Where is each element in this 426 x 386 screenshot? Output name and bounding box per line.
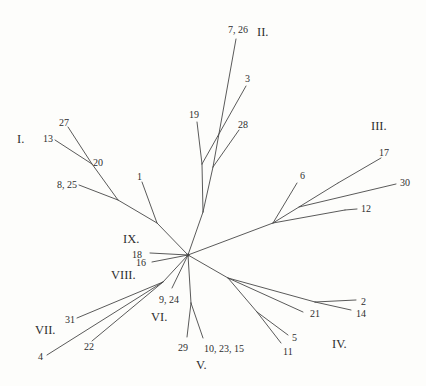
leaf-label-11: 11 bbox=[283, 346, 293, 357]
tree-edge-1 bbox=[55, 140, 92, 164]
tree-edge-22 bbox=[228, 278, 303, 312]
tree-edge-7 bbox=[188, 212, 203, 255]
leaf-label-18: 18 bbox=[132, 249, 142, 260]
leaf-label-30: 30 bbox=[400, 177, 410, 188]
leaf-label-22: 22 bbox=[84, 341, 94, 352]
leaf-label-9-24: 9, 24 bbox=[159, 294, 179, 305]
tree-edge-9 bbox=[197, 122, 202, 164]
leaf-label-1: 1 bbox=[137, 171, 142, 182]
leaf-label-28: 28 bbox=[238, 119, 248, 130]
leaf-label-4: 4 bbox=[38, 351, 43, 362]
tree-edge-30 bbox=[187, 303, 191, 337]
tree-edge-32 bbox=[172, 255, 188, 288]
tree-edge-26 bbox=[228, 278, 257, 312]
tree-edge-13 bbox=[213, 39, 236, 167]
tree-edge-37 bbox=[150, 253, 188, 255]
group-label-V: V. bbox=[196, 358, 207, 372]
group-label-VIII: VIII. bbox=[111, 268, 136, 282]
tree-edge-25 bbox=[315, 302, 351, 310]
tree-edge-23 bbox=[228, 278, 315, 302]
group-label-I: I. bbox=[17, 132, 24, 146]
leaf-label-7-26: 7, 26 bbox=[228, 24, 248, 35]
tree-edge-4 bbox=[118, 200, 157, 223]
leaf-label-21: 21 bbox=[310, 308, 320, 319]
leaf-label-20: 20 bbox=[93, 157, 103, 168]
group-label-VII: VII. bbox=[35, 323, 55, 337]
tree-edge-18 bbox=[299, 184, 396, 207]
tree-edge-11 bbox=[203, 167, 213, 212]
tree-edge-6 bbox=[157, 223, 188, 255]
group-label-VI: VI. bbox=[151, 310, 167, 324]
leaf-label-13: 13 bbox=[43, 133, 53, 144]
leaf-label-17: 17 bbox=[379, 147, 389, 158]
leaf-label-19: 19 bbox=[189, 109, 199, 120]
group-label-IX: IX. bbox=[123, 232, 139, 246]
leaf-label-10-23-15: 10, 23, 15 bbox=[204, 343, 244, 354]
tree-edge-0 bbox=[68, 127, 92, 164]
tree-edge-31 bbox=[191, 303, 203, 338]
tree-edge-24 bbox=[315, 300, 356, 302]
leaf-label-31: 31 bbox=[65, 314, 75, 325]
leaf-label-14: 14 bbox=[356, 308, 366, 319]
phylogenetic-tree-figure: 2713208, 251197, 2632817630122211451110,… bbox=[0, 0, 426, 386]
leaf-label-27: 27 bbox=[59, 117, 69, 128]
tree-edge-20 bbox=[345, 209, 357, 210]
tree-edge-5 bbox=[142, 182, 157, 223]
tree-edge-14 bbox=[188, 223, 273, 255]
leaf-label-12: 12 bbox=[361, 203, 371, 214]
tree-edge-15 bbox=[273, 183, 297, 223]
tree-edge-21 bbox=[188, 255, 228, 278]
group-label-II: II. bbox=[257, 25, 268, 39]
tree-canvas: 2713208, 251197, 2632817630122211451110,… bbox=[0, 0, 426, 386]
leaf-label-5: 5 bbox=[292, 332, 297, 343]
leaf-label-3: 3 bbox=[245, 73, 250, 84]
group-label-IV: IV. bbox=[332, 337, 347, 351]
hub-node bbox=[186, 253, 189, 256]
tree-edge-17 bbox=[338, 158, 381, 183]
tree-edge-29 bbox=[188, 255, 191, 303]
leaf-label-2: 2 bbox=[361, 296, 366, 307]
tree-edge-8 bbox=[202, 164, 203, 212]
leaf-label-6: 6 bbox=[300, 170, 305, 181]
leaf-label-29: 29 bbox=[178, 342, 188, 353]
group-label-III: III. bbox=[371, 119, 387, 133]
tree-edge-12 bbox=[213, 130, 239, 167]
leaf-label-8-25: 8, 25 bbox=[57, 179, 77, 190]
